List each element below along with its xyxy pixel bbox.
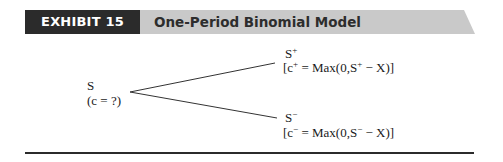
down-payoff-close: − X)]	[362, 125, 394, 140]
up-price-sup: +	[292, 45, 297, 55]
bottom-rule	[25, 152, 474, 154]
down-payoff-open: [c	[283, 125, 293, 140]
up-payoff-mid: = Max(0,S	[298, 60, 357, 75]
down-branch-line	[130, 92, 277, 118]
root-price-label: S	[87, 79, 94, 93]
root-value-label: (c = ?)	[87, 94, 121, 108]
down-payoff-mid: = Max(0,S	[298, 125, 357, 140]
up-payoff-open: [c	[283, 60, 293, 75]
down-price-sup: −	[292, 109, 297, 119]
down-payoff-formula: [c− = Max(0,S− − X)]	[283, 126, 394, 140]
up-payoff-close: − X)]	[362, 60, 394, 75]
up-payoff-formula: [c+ = Max(0,S+ − X)]	[283, 61, 394, 75]
binomial-tree-branches	[0, 0, 503, 162]
up-branch-line	[130, 63, 275, 92]
down-price-label: S−	[285, 111, 297, 125]
